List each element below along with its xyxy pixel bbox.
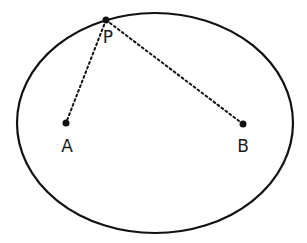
label-b: B: [237, 136, 249, 156]
point-a: [63, 120, 70, 127]
ellipse-diagram: P A B: [0, 0, 307, 243]
segment-pb: [106, 20, 243, 124]
point-p: [103, 17, 110, 24]
point-b: [240, 121, 247, 128]
label-a: A: [61, 136, 73, 156]
ellipse: [17, 13, 293, 233]
label-p: P: [103, 27, 113, 47]
